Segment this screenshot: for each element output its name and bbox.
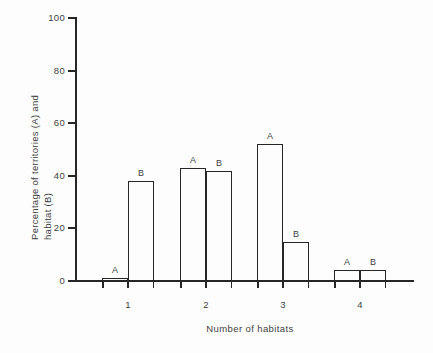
bar-base-tick xyxy=(282,282,284,288)
y-tick-label: 0 xyxy=(37,275,65,287)
bar-B-1 xyxy=(128,181,154,281)
x-axis-line xyxy=(75,280,414,282)
bar-letter-label: A xyxy=(338,257,356,268)
bar-letter-label: A xyxy=(106,265,124,276)
bar-base-tick xyxy=(385,282,387,288)
y-axis-title: Percentage of territories (A) and habita… xyxy=(29,70,55,240)
x-category-label: 3 xyxy=(272,299,294,311)
bar-A-2 xyxy=(180,168,206,281)
bar-base-tick xyxy=(127,282,129,288)
y-axis-title-line1: Percentage of territories (A) and xyxy=(29,70,42,240)
y-axis-line xyxy=(75,17,77,282)
bar-letter-label: B xyxy=(287,229,305,240)
bar-letter-label: B xyxy=(210,158,228,169)
bar-base-tick xyxy=(205,282,207,288)
x-category-label: 1 xyxy=(117,299,139,311)
y-axis-title-line2: habitat (B) xyxy=(42,70,55,240)
y-tick-label: 100 xyxy=(37,12,65,24)
bar-base-tick xyxy=(102,282,104,288)
bar-base-tick xyxy=(359,282,361,288)
bar-base-tick xyxy=(180,282,182,288)
bar-base-tick xyxy=(257,282,259,288)
bar-B-2 xyxy=(206,171,232,281)
bar-letter-label: B xyxy=(364,257,382,268)
x-category-label: 2 xyxy=(195,299,217,311)
bar-base-tick xyxy=(334,282,336,288)
x-axis-title: Number of habitats xyxy=(130,322,370,335)
bar-chart-figure: 020406080100AB1AB2AB3AB4 Number of habit… xyxy=(0,0,433,353)
chart-plot-area: 020406080100AB1AB2AB3AB4 xyxy=(0,0,433,353)
bar-base-tick xyxy=(153,282,155,288)
bar-base-tick xyxy=(308,282,310,288)
bar-A-3 xyxy=(257,144,283,281)
bar-base-tick xyxy=(231,282,233,288)
bar-letter-label: B xyxy=(132,168,150,179)
bar-B-3 xyxy=(283,242,309,281)
bar-letter-label: A xyxy=(184,155,202,166)
bar-letter-label: A xyxy=(261,131,279,142)
x-category-label: 4 xyxy=(349,299,371,311)
